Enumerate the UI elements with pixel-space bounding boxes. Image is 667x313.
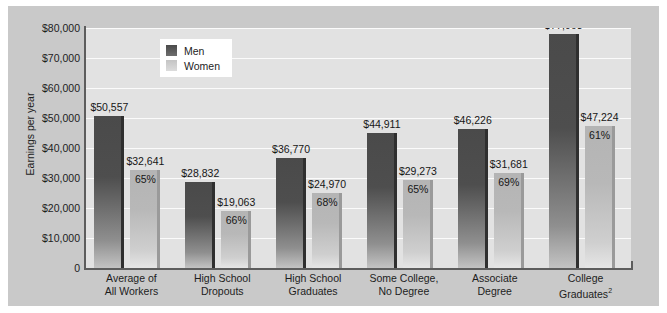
- y-axis-tick-label: 0: [16, 263, 80, 273]
- y-axis-tick-label: $50,000: [16, 113, 80, 123]
- bar-value-label: $47,224: [581, 111, 619, 123]
- bar-edge: [248, 211, 251, 268]
- chart-panel: Earnings per year $80,000$70,000$60,000$…: [8, 6, 659, 306]
- bar-percent-label: 61%: [589, 129, 610, 141]
- x-axis-category-label: CollegeGraduates2: [530, 272, 641, 300]
- bar-percent-label: 65%: [135, 173, 156, 185]
- bar-edge: [157, 170, 160, 268]
- bar-value-label: $32,641: [126, 155, 164, 167]
- bar-edge: [576, 34, 579, 268]
- bar-edge: [485, 129, 488, 268]
- legend-item-women: Women: [166, 58, 220, 73]
- bar-women: $47,22461%: [585, 126, 615, 268]
- chart-legend: Men Women: [160, 39, 232, 77]
- bar-men: $36,770: [276, 158, 306, 268]
- bar-women: $24,97068%: [312, 193, 342, 268]
- bar-edge: [339, 193, 342, 268]
- legend-swatch-women-icon: [166, 60, 177, 71]
- bar-men: $46,226: [458, 129, 488, 268]
- bar-value-label: $77,963: [545, 28, 583, 31]
- bar-percent-label: 69%: [498, 176, 519, 188]
- bar-men: $50,557: [94, 116, 124, 268]
- bar-edge: [430, 180, 433, 268]
- bar-value-label: $29,273: [399, 165, 437, 177]
- bar-value-label: $46,226: [454, 114, 492, 126]
- bar-value-label: $44,911: [363, 118, 400, 130]
- bar-fill: [549, 34, 576, 268]
- bar-edge: [521, 173, 524, 268]
- bar-value-label: $19,063: [217, 196, 255, 208]
- bar-value-label: $24,970: [308, 178, 346, 190]
- x-axis-end-tick: [631, 261, 633, 270]
- bar-women: $32,64165%: [130, 170, 160, 268]
- bar-value-label: $31,681: [490, 158, 528, 170]
- bar-percent-label: 65%: [407, 183, 428, 195]
- y-axis-tick-label: $60,000: [16, 83, 80, 93]
- y-axis-tick-label: $20,000: [16, 203, 80, 213]
- y-axis-tick-label: $70,000: [16, 53, 80, 63]
- bar-edge: [612, 126, 615, 268]
- bar-edge: [212, 182, 215, 268]
- bar-edge: [394, 133, 397, 268]
- earnings-by-education-bar-chart: Earnings per year $80,000$70,000$60,000$…: [0, 0, 667, 313]
- bar-fill: [276, 158, 303, 268]
- bar-women: $19,06366%: [221, 211, 251, 268]
- y-axis-tick-label: $10,000: [16, 233, 80, 243]
- bar-men: $28,832: [185, 182, 215, 268]
- bar-fill: [367, 133, 394, 268]
- bar-edge: [121, 116, 124, 268]
- y-axis-tick-label: $30,000: [16, 173, 80, 183]
- bar-women: $29,27365%: [403, 180, 433, 268]
- bar-percent-label: 66%: [226, 214, 247, 226]
- legend-item-men: Men: [166, 43, 220, 58]
- bar-fill: [185, 182, 212, 268]
- x-axis-line: [84, 268, 633, 270]
- bar-value-label: $36,770: [272, 143, 310, 155]
- legend-label-men: Men: [184, 45, 204, 57]
- y-axis-tick-label: $80,000: [16, 23, 80, 33]
- bar-edge: [303, 158, 306, 268]
- bar-value-label: $28,832: [181, 167, 219, 179]
- bar-fill: [458, 129, 485, 268]
- legend-label-women: Women: [184, 60, 220, 72]
- legend-swatch-men-icon: [166, 45, 177, 56]
- bar-value-label: $50,557: [90, 101, 128, 113]
- bar-women: $31,68169%: [494, 173, 524, 268]
- bar-percent-label: 68%: [317, 196, 338, 208]
- bar-men: $44,911: [367, 133, 397, 268]
- y-axis-tick-labels: Earnings per year $80,000$70,000$60,000$…: [12, 28, 80, 268]
- bar-fill: [94, 116, 121, 268]
- bar-fill: [585, 126, 612, 268]
- bar-men: $77,963: [549, 34, 579, 268]
- y-axis-tick-label: $40,000: [16, 143, 80, 153]
